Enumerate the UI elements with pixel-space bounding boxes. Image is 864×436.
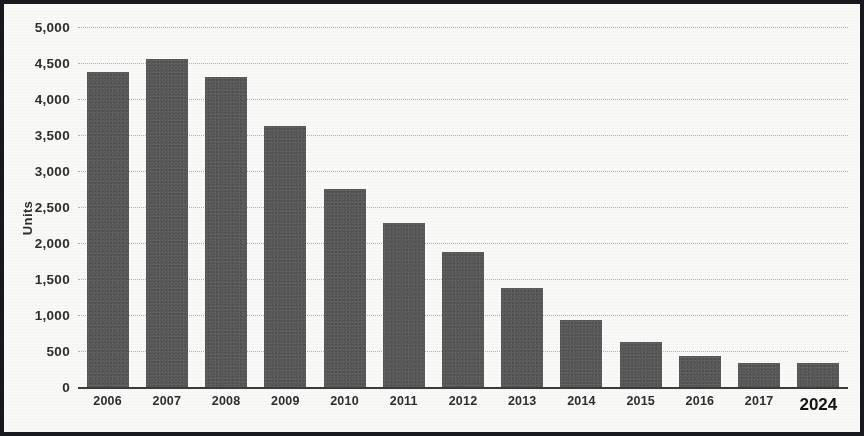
y-axis-tick-label: 4,000: [18, 92, 70, 107]
gridline: [78, 207, 848, 208]
bar: [620, 342, 662, 387]
bar: [501, 288, 543, 387]
bar: [324, 189, 366, 387]
bar: [383, 223, 425, 387]
y-axis-tick-label: 2,000: [18, 236, 70, 251]
gridline: [78, 243, 848, 244]
bar: [679, 356, 721, 387]
gridline: [78, 27, 848, 28]
bar: [264, 126, 306, 387]
y-axis-tick-label: 1,500: [18, 272, 70, 287]
y-axis-tick-label: 1,000: [18, 308, 70, 323]
bar: [87, 72, 129, 387]
axis-baseline: [78, 387, 848, 389]
y-axis-tick-label: 5,000: [18, 20, 70, 35]
bar: [738, 363, 780, 387]
bar: [560, 320, 602, 387]
gridline: [78, 99, 848, 100]
bar: [205, 77, 247, 387]
gridline: [78, 171, 848, 172]
y-axis-tick-label: 0: [18, 380, 70, 395]
y-axis-tick-label: 3,000: [18, 164, 70, 179]
bar: [146, 59, 188, 387]
gridline: [78, 63, 848, 64]
y-axis-tick-label: 4,500: [18, 56, 70, 71]
chart-figure: Units 05001,0001,5002,0002,5003,0003,500…: [0, 0, 864, 436]
bar: [442, 252, 484, 387]
x-axis-tick-label: 2024: [783, 395, 853, 415]
bar: [797, 363, 839, 387]
y-axis-tick-label: 3,500: [18, 128, 70, 143]
y-axis-tick-label: 2,500: [18, 200, 70, 215]
gridline: [78, 135, 848, 136]
plot-area: [78, 27, 848, 387]
y-axis-tick-label: 500: [18, 344, 70, 359]
